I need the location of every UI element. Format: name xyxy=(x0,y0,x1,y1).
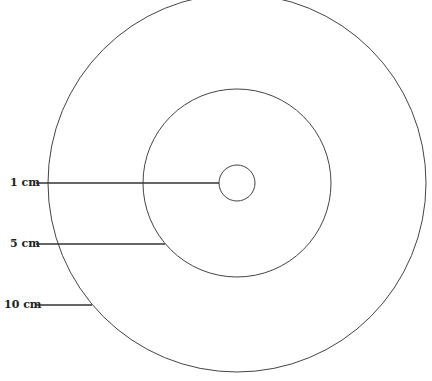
label-5cm: 5 cm xyxy=(10,238,40,250)
concentric-circles-diagram xyxy=(0,0,432,381)
circle-large xyxy=(48,0,426,372)
label-10cm: 10 cm xyxy=(4,299,41,311)
circle-small xyxy=(219,165,255,201)
label-1cm: 1 cm xyxy=(10,177,40,189)
